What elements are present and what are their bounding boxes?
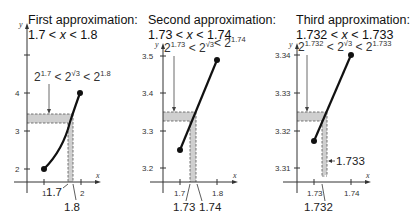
y-tick-label: 3.33	[275, 89, 291, 98]
y-tick-label: 3.32	[275, 127, 291, 136]
arrow-head-icon	[47, 109, 51, 114]
x-callout-label: 1.73	[173, 201, 195, 213]
x-axis-label: x	[95, 171, 100, 180]
y-axis-label: y	[154, 40, 159, 49]
x-callout-label: 1.74	[199, 201, 222, 213]
panel-first-approximation: First approximation: 1.7 < x < 1.8 y x 2	[0, 0, 138, 221]
x-tick-label: 2	[80, 189, 85, 198]
x-tick-label: 1.74	[344, 189, 360, 198]
x-tick-label: 1.7	[174, 189, 186, 198]
y-tick-label: 4	[15, 89, 20, 98]
y-tick-label: 3.5	[142, 52, 154, 61]
x-axis-label: x	[232, 171, 237, 180]
x-callout-label: 1.732	[304, 201, 333, 213]
y-axis-label: y	[18, 20, 23, 29]
y-tick-label: 3.2	[142, 164, 154, 173]
x-axis-label: x	[365, 171, 370, 180]
y-tick-label: 2	[15, 165, 20, 174]
exponential-curve	[180, 60, 217, 150]
panel-third-approximation: Third approximation: 1.732 < x < 1.733 y…	[273, 0, 413, 221]
graph-2: y x 3.5 3.4 3.3 3.2 1.7 1.8 21.73 < 2√3<…	[140, 0, 273, 221]
y-tick-label: 3.34	[275, 51, 291, 60]
y-tick-label: 3	[15, 127, 20, 136]
x-tick-label: 1.8	[212, 189, 224, 198]
x-callout-label: 1.733	[336, 155, 365, 167]
curve-endpoint	[41, 166, 47, 172]
inequality-label: 21.732 < 2√3 < 21.733	[298, 39, 391, 54]
y-tick-label: 3.31	[275, 164, 291, 173]
horizontal-band	[27, 114, 72, 123]
y-axis-arrow-icon	[25, 23, 29, 29]
y-tick-label: 3.3	[142, 127, 154, 136]
y-axis-label: y	[288, 40, 293, 49]
x-axis-arrow-icon	[232, 180, 238, 184]
curve-endpoint	[77, 90, 83, 96]
graph-3: y x 3.34 3.33 3.32 3.31 1.73 1.74 21.732…	[273, 0, 413, 221]
x-tick-label: 1.73	[307, 189, 323, 198]
arrow-head-icon	[305, 107, 309, 112]
x-axis-arrow-icon	[95, 180, 101, 184]
inequality-label: 21.7 < 2√3 < 21.8	[34, 69, 111, 84]
x-callout-label: 1.7	[46, 186, 62, 198]
x-callout-label: 1.8	[64, 201, 80, 213]
y-tick-label: 3.4	[142, 89, 154, 98]
panel-second-approximation: Second approximation: 1.73 < x < 1.74 y …	[140, 0, 273, 221]
arrow-head-icon	[172, 107, 176, 112]
x-axis-arrow-icon	[365, 180, 371, 184]
exponential-curve	[314, 55, 351, 141]
arrow-head-icon	[328, 159, 332, 163]
graph-1: y x 2 3 4 1 2 21.7 < 2√3 < 21.8 1.7 1.8	[0, 0, 138, 221]
exponential-curve	[44, 93, 80, 169]
inequality-label: 21.73 < 2√3< 21.74	[164, 35, 246, 55]
